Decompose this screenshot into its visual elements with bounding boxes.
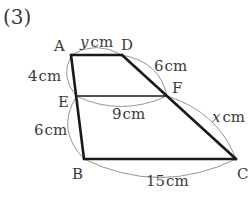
measure-FC: xcm bbox=[212, 108, 245, 126]
problem-number: (3) bbox=[3, 5, 31, 29]
vertex-label-B: B bbox=[72, 165, 83, 183]
vertex-label-A: A bbox=[53, 37, 65, 55]
measure-EF: 9cm bbox=[112, 105, 145, 123]
var-x: x bbox=[212, 108, 221, 126]
measure-DF: 6cm bbox=[154, 57, 187, 75]
vertex-label-E: E bbox=[58, 93, 69, 111]
measure-AE: 4cm bbox=[28, 67, 61, 85]
trapezoid-diagram: (3) A D E F B C ycm 4cm 6cm 6cm 9cm xcm … bbox=[0, 0, 252, 199]
vertex-label-C: C bbox=[237, 165, 248, 183]
measure-BC: 15cm bbox=[146, 172, 189, 190]
vertex-label-F: F bbox=[172, 79, 182, 97]
measure-EB: 6cm bbox=[34, 121, 67, 139]
measure-AD: ycm bbox=[79, 33, 113, 51]
var-y: y bbox=[79, 33, 89, 51]
vertex-label-D: D bbox=[121, 36, 133, 54]
